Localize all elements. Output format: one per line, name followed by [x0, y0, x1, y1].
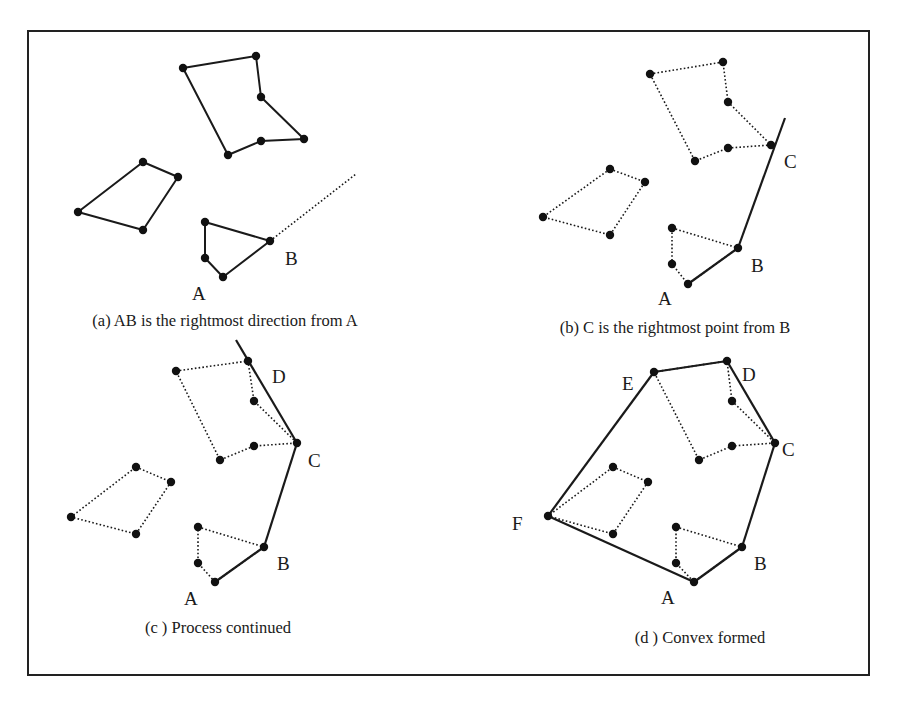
vertex-point — [646, 70, 654, 78]
hull-edge — [215, 547, 264, 582]
vertex-point — [139, 226, 147, 234]
panel-caption: (d ) Convex formed — [635, 628, 766, 647]
point-label-b: B — [277, 553, 290, 574]
panel-c: DCBA(c ) Process continued — [67, 340, 321, 637]
vertex-point — [728, 397, 736, 405]
hull-edge — [264, 443, 297, 547]
vertex-point — [139, 158, 147, 166]
vertex-point — [544, 512, 552, 520]
vertex-point — [67, 513, 75, 521]
vertex-point — [172, 367, 180, 375]
vertex-point — [300, 135, 308, 143]
vertex-point — [672, 523, 680, 531]
vertex-point — [167, 478, 175, 486]
panel-caption: (a) AB is the rightmost direction from A — [92, 311, 357, 330]
polygon-3 — [205, 222, 270, 277]
vertex-point — [641, 178, 649, 186]
point-label-b: B — [285, 248, 298, 269]
vertex-point — [201, 218, 209, 226]
point-label-d: D — [272, 366, 286, 387]
vertex-point — [211, 578, 219, 586]
vertex-point — [244, 357, 252, 365]
vertex-point — [684, 280, 692, 288]
vertex-point — [539, 213, 547, 221]
panel-a: BA(a) AB is the rightmost direction from… — [74, 52, 358, 330]
vertex-point — [219, 273, 227, 281]
vertex-point — [724, 144, 732, 152]
vertex-point — [609, 530, 617, 538]
vertex-point — [257, 137, 265, 145]
vertex-point — [252, 52, 260, 60]
vertex-point — [216, 456, 224, 464]
point-label-c: C — [782, 439, 795, 460]
point-label-c: C — [784, 151, 797, 172]
vertex-point — [132, 530, 140, 538]
point-label-e: E — [622, 373, 634, 394]
figure-frame — [28, 31, 869, 675]
polygon-2 — [78, 162, 178, 230]
point-label-b: B — [751, 255, 764, 276]
vertex-point — [257, 93, 265, 101]
vertex-point — [293, 439, 301, 447]
panel-d: EDCFBA(d ) Convex formed — [512, 357, 795, 647]
vertex-point — [174, 173, 182, 181]
point-label-a: A — [661, 587, 675, 608]
point-label-f: F — [512, 513, 523, 534]
hull-edge — [688, 248, 738, 284]
vertex-point — [724, 98, 732, 106]
polygon-1 — [183, 56, 304, 155]
vertex-point — [194, 523, 202, 531]
vertex-point — [606, 231, 614, 239]
vertex-point — [266, 237, 274, 245]
vertex-point — [132, 463, 140, 471]
point-label-a: A — [192, 283, 206, 304]
point-label-a: A — [658, 288, 672, 309]
vertex-point — [723, 357, 731, 365]
vertex-point — [690, 578, 698, 586]
vertex-point — [668, 260, 676, 268]
polygon-1 — [650, 62, 771, 161]
hull-edge — [548, 372, 654, 516]
polygon-2 — [543, 169, 645, 235]
vertex-point — [179, 64, 187, 72]
direction-ray — [270, 174, 356, 241]
vertex-point — [201, 254, 209, 262]
vertex-point — [728, 442, 736, 450]
panel-caption: (b) C is the rightmost point from B — [560, 318, 791, 337]
hull-edge — [694, 547, 742, 582]
vertex-point — [609, 463, 617, 471]
vertex-point — [74, 208, 82, 216]
vertex-point — [738, 543, 746, 551]
vertex-point — [695, 456, 703, 464]
vertex-point — [672, 559, 680, 567]
vertex-point — [668, 224, 676, 232]
hull-edge — [654, 361, 727, 372]
hull-edge — [742, 443, 775, 547]
polygon-2 — [71, 467, 171, 534]
vertex-point — [719, 58, 727, 66]
point-label-d: D — [742, 364, 756, 385]
hull-edge — [236, 340, 297, 443]
vertex-point — [260, 543, 268, 551]
point-label-a: A — [184, 588, 198, 609]
convex-hull-figure: BA(a) AB is the rightmost direction from… — [0, 0, 897, 714]
vertex-point — [734, 244, 742, 252]
vertex-point — [691, 157, 699, 165]
panel-caption: (c ) Process continued — [145, 618, 292, 637]
point-label-c: C — [308, 450, 321, 471]
vertex-point — [644, 478, 652, 486]
vertex-point — [194, 559, 202, 567]
vertex-point — [767, 141, 775, 149]
hull-edge — [738, 118, 785, 248]
vertex-point — [250, 442, 258, 450]
vertex-point — [606, 165, 614, 173]
point-label-b: B — [754, 553, 767, 574]
vertex-point — [650, 368, 658, 376]
panel-b: CBA(b) C is the rightmost point from B — [539, 58, 797, 337]
vertex-point — [250, 397, 258, 405]
vertex-point — [771, 439, 779, 447]
vertex-point — [224, 151, 232, 159]
